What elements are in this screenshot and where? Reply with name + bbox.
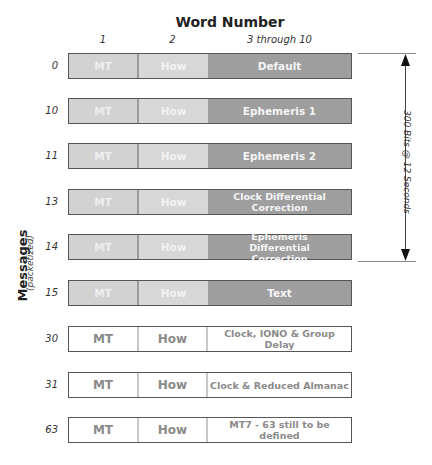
word1-cell: MT [69, 144, 139, 168]
word2-cell: How [139, 235, 208, 259]
dimension-label: 300 Bits @ 12 Seconds [402, 110, 412, 200]
diagram-title: Word Number [0, 14, 432, 30]
word1-cell: MT [69, 235, 139, 259]
message-row-15: MT How Text [68, 280, 352, 306]
message-row-0: MT How Default [68, 53, 352, 79]
column-header-2: 2 [138, 34, 207, 45]
row-label: 63 [0, 424, 58, 435]
word2-cell: How [139, 418, 208, 442]
content-cell: Default [208, 54, 351, 78]
content-cell: Ephemeris Differential Correction [208, 235, 351, 259]
word2-cell: How [139, 144, 208, 168]
word2-cell: How [139, 190, 208, 214]
word2-cell: How [139, 99, 208, 123]
row-label: 0 [0, 60, 58, 71]
row-label: 14 [0, 241, 58, 252]
word2-cell: How [139, 281, 208, 305]
word1-cell: MT [69, 373, 139, 397]
row-label: 15 [0, 287, 58, 298]
message-row-11: MT How Ephemeris 2 [68, 143, 352, 169]
message-row-13: MT How Clock Differential Correction [68, 189, 352, 215]
word2-cell: How [139, 373, 208, 397]
content-cell: MT7 - 63 still to be defined [208, 418, 351, 442]
arrow-up-icon [400, 54, 411, 66]
title-text: Word Number [175, 14, 284, 30]
column-header-3: 3 through 10 [207, 34, 352, 45]
content-cell: Text [208, 281, 351, 305]
row-label: 31 [0, 379, 58, 390]
content-cell: Ephemeris 2 [208, 144, 351, 168]
row-label: 13 [0, 196, 58, 207]
word1-cell: MT [69, 99, 139, 123]
message-row-31: MT How Clock & Reduced Almanac [68, 372, 352, 398]
content-cell: Clock Differential Correction [208, 190, 351, 214]
message-row-14: MT How Ephemeris Differential Correction [68, 234, 352, 260]
content-cell: Clock & Reduced Almanac [208, 373, 351, 397]
message-row-63: MT How MT7 - 63 still to be defined [68, 417, 352, 443]
word1-cell: MT [69, 327, 139, 351]
message-row-30: MT How Clock, IONO & Group Delay [68, 326, 352, 352]
message-row-10: MT How Ephemeris 1 [68, 98, 352, 124]
content-cell: Clock, IONO & Group Delay [208, 327, 351, 351]
column-header-1: 1 [68, 34, 138, 45]
row-label: 11 [0, 150, 58, 161]
word1-cell: MT [69, 281, 139, 305]
arrow-down-icon [400, 249, 411, 261]
row-label: 30 [0, 333, 58, 344]
content-cell: Ephemeris 1 [208, 99, 351, 123]
word2-cell: How [139, 54, 208, 78]
word1-cell: MT [69, 190, 139, 214]
word1-cell: MT [69, 418, 139, 442]
row-label: 10 [0, 105, 58, 116]
word1-cell: MT [69, 54, 139, 78]
dimension-bottom-line [358, 261, 416, 262]
word2-cell: How [139, 327, 208, 351]
